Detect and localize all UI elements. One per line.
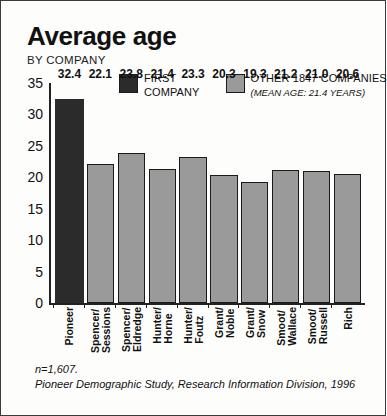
category-label-line2: Wallace xyxy=(286,307,297,346)
bar[interactable] xyxy=(55,99,84,303)
category-label-line1: Smoot/ xyxy=(274,310,286,346)
category-slot: Hunter/Horne xyxy=(147,307,178,359)
bar-slot: 21.0 xyxy=(301,83,332,303)
bar-value-label: 20.3 xyxy=(212,67,235,81)
category-label-line2: Horne xyxy=(162,307,173,344)
bar[interactable] xyxy=(179,157,206,303)
category-slot: Smoot/Russell xyxy=(301,307,332,359)
category-label-line2: Eldredge xyxy=(131,307,142,352)
y-axis-tick-35: 35 xyxy=(27,75,43,91)
footnote-sample-size: n=1,607. xyxy=(35,363,375,375)
y-axis-tick-20: 20 xyxy=(27,169,43,185)
bar[interactable] xyxy=(334,174,361,303)
y-axis-tick-labels: 35302520151050 xyxy=(5,83,43,303)
category-slot: Smoot/Wallace xyxy=(270,307,301,359)
category-label: Spencer/Eldredge xyxy=(121,307,142,352)
y-axis-tick-10: 10 xyxy=(27,232,43,248)
bar-slot: 21.4 xyxy=(147,83,178,303)
category-slot: Hunter/Foutz xyxy=(178,307,209,359)
footnote: n=1,607. Pioneer Demographic Study, Rese… xyxy=(35,363,375,390)
category-slot: Spencer/Sessions xyxy=(85,307,116,359)
bar-value-label: 23.8 xyxy=(120,67,143,81)
bar-series: 32.422.123.821.423.320.319.321.221.020.6 xyxy=(51,83,365,303)
category-label-line1: Smoot/ xyxy=(305,309,317,345)
bar-value-label: 19.3 xyxy=(243,67,266,81)
bar[interactable] xyxy=(241,182,268,303)
y-axis-tick-15: 15 xyxy=(27,201,43,217)
category-label-line2: Sessions xyxy=(100,307,111,353)
bar-value-label: 32.4 xyxy=(58,67,81,81)
y-axis-tick-0: 0 xyxy=(35,295,43,311)
category-label-line2: Noble xyxy=(224,307,235,338)
bar-value-label: 21.4 xyxy=(150,67,173,81)
bar-slot: 23.3 xyxy=(178,83,209,303)
category-label-line2: Russell xyxy=(317,307,328,344)
bar[interactable] xyxy=(118,153,145,303)
bar-value-label: 21.0 xyxy=(305,67,328,81)
bar-value-label: 20.6 xyxy=(336,67,359,81)
chart-subtitle: BY COMPANY xyxy=(27,54,176,66)
category-slot: Grant/Snow xyxy=(239,307,270,359)
category-label-line2: Foutz xyxy=(193,307,204,344)
bar-slot: 23.8 xyxy=(116,83,147,303)
bar-slot: 20.6 xyxy=(332,83,363,303)
bar[interactable] xyxy=(87,164,114,303)
category-slot: Grant/Noble xyxy=(209,307,240,359)
category-slot: Pioneer xyxy=(54,307,85,359)
bar[interactable] xyxy=(272,170,299,303)
category-label: Rich xyxy=(342,307,353,330)
category-label-line1: Rich xyxy=(341,307,353,330)
y-axis-tick-30: 30 xyxy=(27,106,43,122)
bar[interactable] xyxy=(210,175,237,303)
category-label: Hunter/Horne xyxy=(152,307,173,344)
category-label: Grant/Snow xyxy=(244,307,265,338)
bar[interactable] xyxy=(303,171,330,303)
category-label-line1: Pioneer xyxy=(63,307,75,346)
category-slot: Rich xyxy=(332,307,363,359)
x-axis-category-labels: PioneerSpencer/SessionsSpencer/EldredgeH… xyxy=(51,307,365,359)
y-axis-tick-5: 5 xyxy=(35,264,43,280)
category-label: Smoot/Russell xyxy=(306,307,327,344)
bar-value-label: 22.1 xyxy=(89,67,112,81)
category-label: Pioneer xyxy=(64,307,75,346)
bar-slot: 20.3 xyxy=(209,83,240,303)
bar-slot: 32.4 xyxy=(54,83,85,303)
plot-area: 35302520151050 32.422.123.821.423.320.31… xyxy=(49,83,365,303)
category-label: Smoot/Wallace xyxy=(275,307,296,346)
bar-slot: 22.1 xyxy=(85,83,116,303)
bar-slot: 19.3 xyxy=(239,83,270,303)
footnote-source: Pioneer Demographic Study, Research Info… xyxy=(35,378,375,390)
y-axis-tick-25: 25 xyxy=(27,138,43,154)
category-label: Grant/Noble xyxy=(213,307,234,338)
bar[interactable] xyxy=(149,169,176,304)
bar-value-label: 23.3 xyxy=(181,67,204,81)
page-title: Average age xyxy=(27,23,176,49)
bar-slot: 21.2 xyxy=(270,83,301,303)
chart-header: Average age BY COMPANY xyxy=(27,23,176,66)
bar-value-label: 21.2 xyxy=(274,67,297,81)
category-label: Spencer/Sessions xyxy=(90,307,111,353)
category-slot: Spencer/Eldredge xyxy=(116,307,147,359)
category-label-line2: Snow xyxy=(255,307,266,338)
category-label: Hunter/Foutz xyxy=(183,307,204,344)
